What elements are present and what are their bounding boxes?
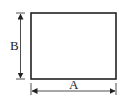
dimension-diagram: B A bbox=[0, 0, 127, 99]
rectangle bbox=[31, 13, 116, 79]
height-label: B bbox=[10, 38, 19, 53]
height-dimension: B bbox=[10, 13, 25, 79]
width-label: A bbox=[69, 77, 79, 92]
